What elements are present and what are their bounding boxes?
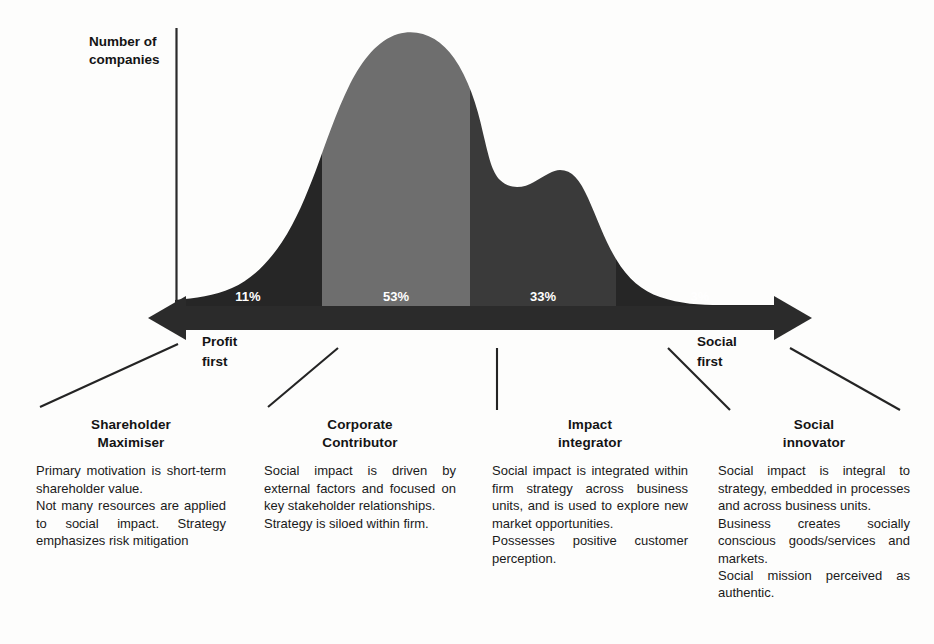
band-label-2: 33%: [530, 289, 556, 304]
category-column-2: Impact integrator Social impact is integ…: [492, 416, 688, 567]
column-title-line2: Contributor: [322, 435, 397, 450]
leader-lines: [40, 344, 900, 410]
column-paragraph: Business creates socially conscious good…: [718, 515, 910, 567]
column-title-line1: Impact: [568, 417, 612, 432]
left-pole-label-line2: first: [202, 354, 228, 369]
figure-canvas: Number of companies 11% 53% 33% 3% Profi…: [0, 0, 934, 644]
leader-line-0: [40, 344, 178, 407]
column-title-2: Impact integrator: [492, 416, 688, 451]
column-title-line2: innovator: [783, 435, 845, 450]
arrow-head-right-icon: [774, 296, 812, 340]
column-body-0: Primary motivation is short-term shareho…: [36, 462, 226, 549]
band-rect-3: [616, 20, 788, 312]
column-title-line2: Maximiser: [98, 435, 165, 450]
column-body-1: Social impact is driven by external fact…: [264, 462, 456, 532]
left-pole-label-line1: Profit: [202, 334, 238, 349]
leader-line-1: [268, 348, 338, 407]
column-paragraph: Strategy is siloed within firm.: [264, 515, 456, 532]
arrow-shaft: [175, 306, 785, 330]
band-label-3: 3%: [691, 289, 710, 304]
column-paragraph: Primary motivation is short-term shareho…: [36, 462, 226, 497]
column-title-1: Corporate Contributor: [264, 416, 456, 451]
category-column-0: Shareholder Maximiser Primary motivation…: [36, 416, 226, 550]
category-column-1: Corporate Contributor Social impact is d…: [264, 416, 456, 532]
band-rect-0: [175, 20, 322, 312]
column-body-2: Social impact is integrated within firm …: [492, 462, 688, 567]
column-title-line2: integrator: [558, 435, 622, 450]
column-paragraph: Social mission perceived as authentic.: [718, 567, 910, 602]
column-paragraph: Social impact is integral to strategy, e…: [718, 462, 910, 514]
y-axis-label-line1: Number of: [89, 34, 157, 49]
column-title-line1: Social: [794, 417, 834, 432]
column-title-0: Shareholder Maximiser: [36, 416, 226, 451]
column-title-line1: Shareholder: [91, 417, 171, 432]
curve-bands: [175, 20, 788, 312]
right-pole-label-line2: first: [697, 354, 723, 369]
column-paragraph: Social impact is integrated within firm …: [492, 462, 688, 532]
band-label-0: 11%: [235, 289, 261, 304]
band-label-1: 53%: [383, 289, 409, 304]
column-title-3: Social innovator: [718, 416, 910, 451]
column-title-line1: Corporate: [327, 417, 392, 432]
y-axis-label-line2: companies: [89, 52, 160, 67]
category-column-3: Social innovator Social impact is integr…: [718, 416, 910, 602]
leader-line-4: [790, 348, 900, 410]
band-rect-1: [322, 20, 470, 312]
column-paragraph: Not many resources are applied to social…: [36, 497, 226, 549]
arrow-head-left-icon: [148, 296, 186, 340]
column-paragraph: Social impact is driven by external fact…: [264, 462, 456, 514]
right-pole-label-line1: Social: [697, 334, 737, 349]
column-paragraph: Possesses positive customer perception.: [492, 532, 688, 567]
band-rect-2: [470, 20, 616, 312]
column-body-3: Social impact is integral to strategy, e…: [718, 462, 910, 602]
